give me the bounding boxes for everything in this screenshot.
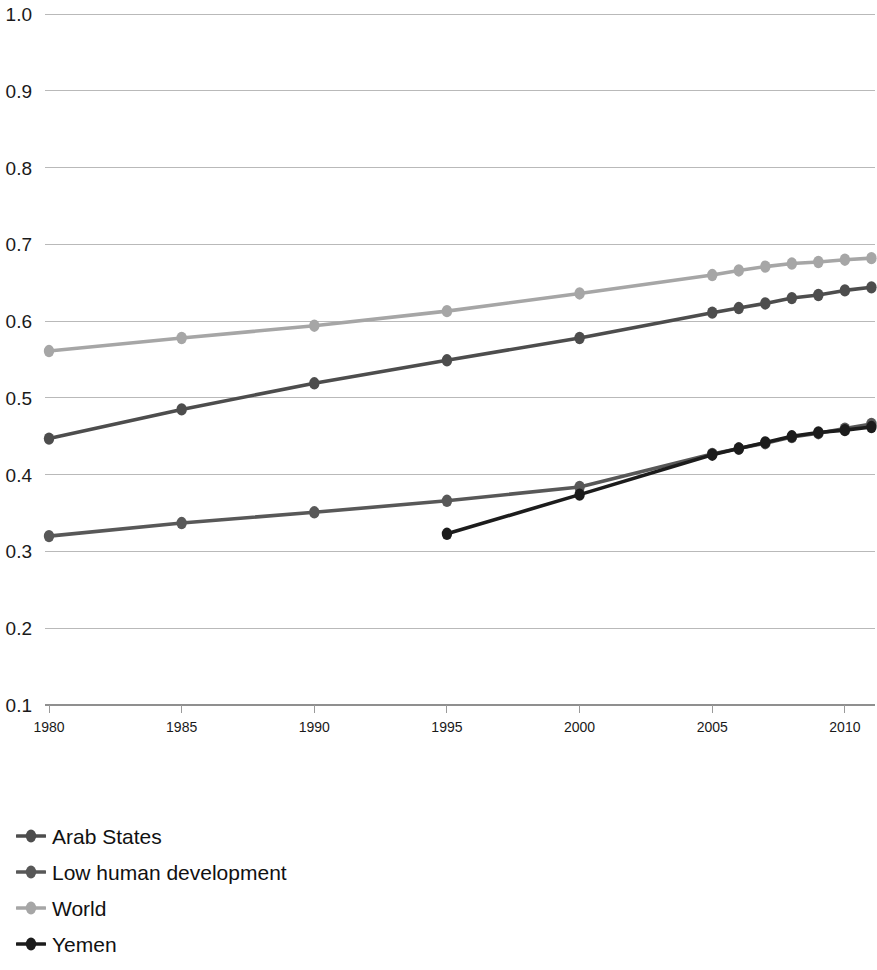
x-axis-tick-label: 1980	[33, 719, 64, 735]
legend-item-arab-states[interactable]: Arab States	[16, 818, 516, 854]
line-chart-svg: 1.00.90.80.70.60.50.40.30.20.1 198019851…	[0, 0, 877, 740]
legend-marker-icon	[16, 897, 46, 919]
x-axis-tick-label: 2005	[697, 719, 728, 735]
data-point-marker	[574, 287, 584, 299]
y-axis-tick-label: 0.9	[6, 81, 32, 102]
x-axis-tick-label: 1985	[166, 719, 197, 735]
data-point-marker	[309, 377, 319, 389]
data-point-marker	[44, 345, 54, 357]
series-line	[447, 427, 871, 534]
y-axis-tick-labels: 1.00.90.80.70.60.50.40.30.20.1	[6, 4, 33, 716]
data-point-marker	[734, 442, 744, 454]
series-low-human-development	[44, 418, 877, 542]
data-point-marker	[866, 281, 876, 293]
chart-legend: Arab StatesLow human developmentWorldYem…	[16, 818, 516, 962]
y-axis-tick-label: 0.6	[6, 311, 32, 332]
chart-container: 1.00.90.80.70.60.50.40.30.20.1 198019851…	[0, 0, 877, 970]
legend-marker-icon	[16, 933, 46, 955]
y-axis-tick-label: 0.4	[6, 465, 33, 486]
x-axis-tick-labels: 1980198519901995200020052010	[33, 719, 860, 735]
x-axis-tick-label: 1990	[299, 719, 330, 735]
series-arab-states	[44, 281, 877, 445]
data-point-marker	[176, 332, 186, 344]
data-point-marker	[707, 306, 717, 318]
data-point-marker	[176, 403, 186, 415]
data-point-marker	[787, 292, 797, 304]
x-axis-tick-label: 2000	[564, 719, 595, 735]
y-axis-tick-label: 0.3	[6, 541, 32, 562]
data-point-marker	[574, 488, 584, 500]
data-point-marker	[442, 528, 452, 540]
y-axis-tick-label: 0.1	[6, 695, 32, 716]
legend-item-world[interactable]: World	[16, 890, 516, 926]
legend-item-label: Arab States	[52, 826, 162, 847]
data-series	[44, 252, 877, 542]
legend-item-label: Yemen	[52, 934, 117, 955]
data-point-marker	[813, 426, 823, 438]
data-point-marker	[866, 421, 876, 433]
data-point-marker	[309, 506, 319, 518]
legend-item-label: Low human development	[52, 862, 287, 883]
x-axis-ticks	[49, 705, 845, 713]
y-axis-tick-label: 0.5	[6, 388, 32, 409]
data-point-marker	[734, 264, 744, 276]
data-point-marker	[813, 289, 823, 301]
data-point-marker	[442, 305, 452, 317]
data-point-marker	[707, 269, 717, 281]
legend-marker-icon	[16, 861, 46, 883]
data-point-marker	[309, 320, 319, 332]
y-axis-tick-label: 0.2	[6, 618, 32, 639]
x-axis-tick-label: 1995	[431, 719, 462, 735]
y-axis-tick-label: 0.8	[6, 158, 32, 179]
data-point-marker	[707, 449, 717, 461]
data-point-marker	[442, 495, 452, 507]
data-point-marker	[760, 297, 770, 309]
data-point-marker	[760, 260, 770, 272]
data-point-marker	[442, 354, 452, 366]
plot-area: 1.00.90.80.70.60.50.40.30.20.1 198019851…	[0, 0, 877, 740]
data-point-marker	[734, 302, 744, 314]
data-point-marker	[574, 332, 584, 344]
data-point-marker	[840, 424, 850, 436]
data-point-marker	[44, 530, 54, 542]
data-point-marker	[44, 432, 54, 444]
series-line	[49, 258, 871, 351]
y-axis-tick-label: 0.7	[6, 234, 32, 255]
legend-marker-icon	[16, 825, 46, 847]
data-point-marker	[866, 252, 876, 264]
legend-item-low-human-development[interactable]: Low human development	[16, 854, 516, 890]
data-point-marker	[813, 256, 823, 268]
legend-item-label: World	[52, 898, 106, 919]
data-point-marker	[787, 257, 797, 269]
data-point-marker	[176, 517, 186, 529]
series-yemen	[442, 421, 877, 540]
data-point-marker	[787, 430, 797, 442]
x-axis-tick-label: 2010	[829, 719, 860, 735]
data-point-marker	[760, 436, 770, 448]
y-axis-tick-label: 1.0	[6, 4, 32, 25]
series-line	[49, 424, 871, 536]
data-point-marker	[840, 253, 850, 265]
legend-item-yemen[interactable]: Yemen	[16, 926, 516, 962]
data-point-marker	[840, 284, 850, 296]
